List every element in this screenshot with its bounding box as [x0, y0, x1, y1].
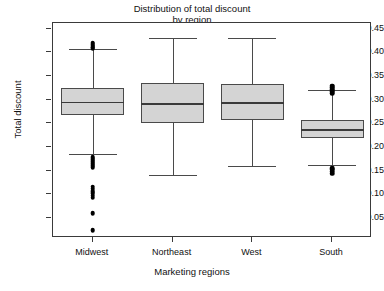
y-axis-tick-mark: [46, 28, 51, 29]
x-axis-tick-label-midwest: Midwest: [75, 248, 108, 257]
box-group-south: [53, 23, 370, 236]
x-axis-tick-mark: [331, 237, 332, 242]
x-axis-tick-mark: [92, 237, 93, 242]
y-axis-tick-mark: [46, 51, 51, 52]
y-axis-tick-mark: [46, 75, 51, 76]
y-axis-label: Total discount: [12, 60, 23, 160]
x-axis-tick-label-northeast: Northeast: [152, 248, 191, 257]
x-axis-tick-label-west: West: [241, 248, 261, 257]
boxplot-chart: Distribution of total discount by region…: [0, 0, 384, 291]
y-axis-tick-mark: [46, 122, 51, 123]
y-axis-tick-mark: [46, 217, 51, 218]
chart-title-line-1: Distribution of total discount: [0, 3, 384, 14]
x-axis-label: Marketing regions: [0, 266, 384, 277]
outlier-point: [330, 171, 335, 176]
y-axis-tick-mark: [46, 99, 51, 100]
plot-area: [52, 22, 371, 237]
outlier-point: [330, 91, 335, 96]
median-line: [301, 129, 364, 131]
lower-whisker-line: [332, 138, 333, 165]
x-axis-tick-mark: [251, 237, 252, 242]
y-axis-tick-mark: [46, 193, 51, 194]
x-axis-tick-label-south: South: [319, 248, 343, 257]
y-axis-tick-mark: [46, 170, 51, 171]
y-axis-tick-mark: [46, 146, 51, 147]
x-axis-tick-mark: [172, 237, 173, 242]
